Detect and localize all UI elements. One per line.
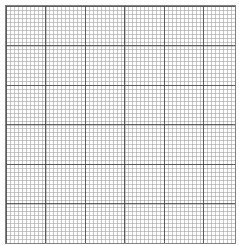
major-vertical-gridlines (6, 6, 235, 243)
grid-layers (6, 6, 235, 243)
major-horizontal-gridlines (6, 6, 235, 243)
graph-paper-page (0, 0, 239, 246)
minor-vertical-gridlines (6, 6, 235, 243)
grid-border-box (5, 5, 236, 244)
minor-horizontal-gridlines (6, 6, 235, 243)
